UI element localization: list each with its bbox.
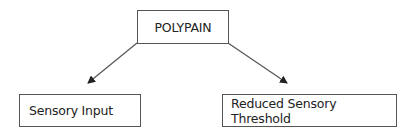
arrow-to-reduced-sensory-threshold [228,43,287,83]
child-node-label: Sensory Input [29,103,113,118]
child-node-reduced-sensory-threshold: Reduced Sensory Threshold [222,94,397,127]
child-node-label: Reduced Sensory Threshold [231,96,396,126]
arrow-to-sensory-input [88,43,137,83]
root-node-label: POLYPAIN [154,20,211,35]
root-node-box: POLYPAIN [137,10,229,44]
child-node-sensory-input: Sensory Input [19,94,141,127]
